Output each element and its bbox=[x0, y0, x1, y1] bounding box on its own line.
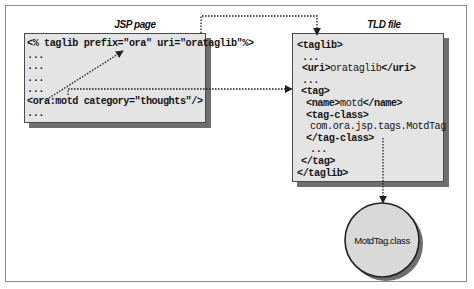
motd-to-tag-connector bbox=[68, 89, 292, 95]
motd-to-prefix-connector bbox=[49, 51, 123, 98]
connector-layer bbox=[0, 0, 474, 289]
uri-to-taglib-connector bbox=[201, 16, 317, 35]
class-node-label: MotdTag.class bbox=[354, 235, 410, 246]
